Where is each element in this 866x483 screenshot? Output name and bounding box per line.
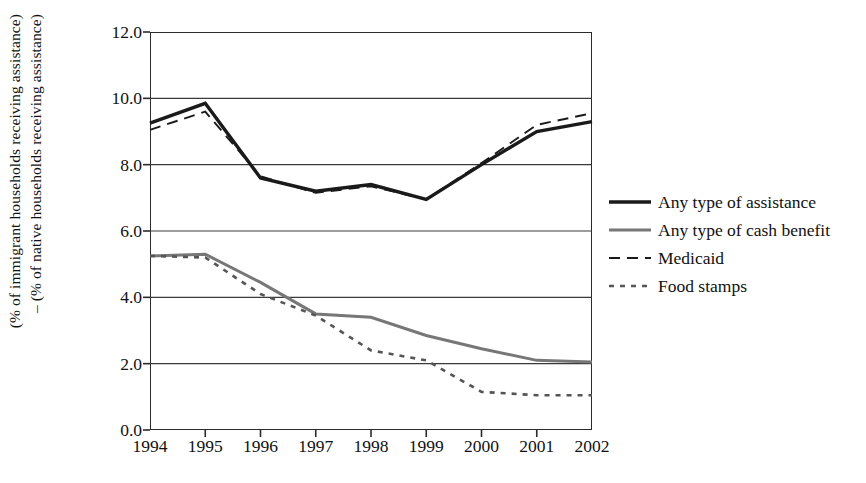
y-tick-label: 10.0 (96, 88, 142, 109)
y-axis-tick-labels: 12.010.08.06.04.02.00.0 (50, 0, 142, 483)
data-series-line (150, 256, 592, 395)
legend-item[interactable]: Any type of assistance (608, 188, 860, 216)
legend-item-label: Any type of assistance (658, 192, 816, 213)
legend-item[interactable]: Medicaid (608, 244, 860, 272)
x-tick-label: 1997 (298, 436, 333, 457)
legend-item-label: Food stamps (658, 276, 747, 297)
chart-canvas (150, 32, 592, 430)
data-series-line (150, 254, 592, 362)
legend-line-swatch-icon (608, 279, 652, 293)
y-tick-label: 2.0 (96, 353, 142, 374)
y-axis-label-line-1: (% of immigrant households receiving ass… (6, 14, 24, 328)
y-tick-label: 6.0 (96, 221, 142, 242)
y-tick-label: 4.0 (96, 287, 142, 308)
chart-legend: Any type of assistanceAny type of cash b… (608, 188, 860, 300)
x-tick-label: 1996 (243, 436, 278, 457)
x-tick-label: 2000 (464, 436, 499, 457)
legend-item[interactable]: Any type of cash benefit (608, 216, 860, 244)
x-tick-label: 1998 (354, 436, 389, 457)
x-tick-label: 1994 (133, 436, 168, 457)
x-axis-tick-labels: 199419951996199719981999200020012002 (0, 436, 866, 466)
legend-line-swatch-icon (608, 223, 652, 237)
legend-line-swatch-icon (608, 195, 652, 209)
legend-item-label: Any type of cash benefit (658, 220, 830, 241)
legend-line-swatch-icon (608, 251, 652, 265)
legend-item[interactable]: Food stamps (608, 272, 860, 300)
x-tick-label: 2001 (519, 436, 554, 457)
y-tick-label: 12.0 (96, 22, 142, 43)
chart-figure: (% of immigrant households receiving ass… (0, 0, 866, 483)
data-series-line (150, 103, 592, 199)
legend-item-label: Medicaid (658, 248, 724, 269)
x-tick-label: 1999 (409, 436, 444, 457)
plot-area (150, 32, 592, 430)
y-axis-label-line-2: – (% of native households receiving assi… (27, 14, 45, 313)
x-tick-label: 1995 (188, 436, 223, 457)
x-tick-label: 2002 (575, 436, 610, 457)
y-tick-label: 8.0 (96, 154, 142, 175)
